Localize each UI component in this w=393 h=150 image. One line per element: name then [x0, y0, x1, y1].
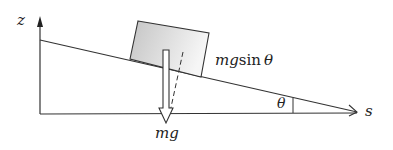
- s-axis-label: s: [365, 104, 373, 119]
- component-label-angle: θ: [264, 51, 273, 69]
- z-axis: [37, 16, 43, 114]
- component-label-func: sin: [239, 51, 261, 69]
- angle-label: θ: [277, 96, 285, 110]
- z-axis-label: z: [17, 13, 25, 28]
- base-line: [40, 113, 357, 114]
- z-axis-arrowhead-icon: [37, 16, 43, 27]
- component-label-prefix: mg: [215, 51, 239, 69]
- incline-diagram: [0, 0, 393, 150]
- weight-label: mg: [155, 126, 179, 141]
- component-label: mgsin θ: [215, 53, 273, 68]
